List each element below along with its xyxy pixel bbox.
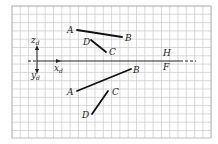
- point-label-d: D: [81, 110, 89, 120]
- point-label-a: A: [66, 25, 74, 35]
- point-label-b: B: [132, 65, 140, 75]
- segment-dc: [91, 40, 106, 52]
- grid-paper: [12, 6, 211, 138]
- point-label-d: D: [82, 37, 90, 47]
- plane-label-horizontal: H: [162, 48, 171, 58]
- point-label-a: A: [66, 87, 74, 97]
- z-axis-label: zd: [30, 35, 40, 46]
- point-label-b: B: [124, 33, 132, 43]
- point-label-c: C: [109, 47, 116, 57]
- y-axis-label: yd: [30, 70, 40, 81]
- plane-label-frontal: F: [162, 62, 170, 72]
- point-label-c: C: [112, 87, 119, 97]
- segment-cd: [92, 91, 108, 114]
- orthographic-projection-diagram: zd yd xd H F ABDCBACD: [0, 0, 218, 144]
